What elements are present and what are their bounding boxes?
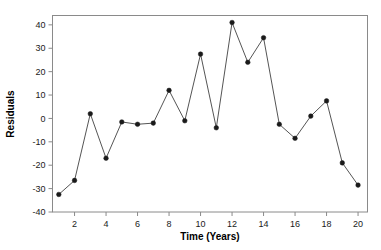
- data-point-marker: [72, 178, 77, 183]
- y-tick-label: -40: [32, 207, 45, 217]
- y-tick-label: 10: [35, 90, 45, 100]
- x-tick-label: 20: [353, 219, 363, 229]
- data-point-marker: [104, 156, 109, 161]
- data-point-marker: [340, 161, 345, 166]
- data-point-marker: [230, 20, 235, 25]
- y-axis-title: Residuals: [5, 90, 16, 138]
- y-tick-label: -10: [32, 137, 45, 147]
- data-point-marker: [198, 52, 203, 57]
- data-point-marker: [57, 192, 62, 197]
- y-tick-label: -20: [32, 160, 45, 170]
- data-point-marker: [135, 122, 140, 127]
- y-axis-tick-labels: -40-30-20-10010203040: [32, 20, 45, 217]
- y-tick-label: 20: [35, 67, 45, 77]
- data-point-marker: [324, 99, 329, 104]
- y-tick-label: 30: [35, 43, 45, 53]
- y-axis-ticks: [49, 25, 53, 212]
- y-tick-label: 0: [40, 114, 45, 124]
- data-point-marker: [309, 114, 314, 119]
- x-tick-label: 12: [227, 219, 237, 229]
- y-tick-label: 40: [35, 20, 45, 30]
- data-point-marker: [151, 121, 156, 126]
- plot-area: -40-30-20-10010203040 2468101214161820 T…: [0, 0, 381, 250]
- x-tick-label: 14: [259, 219, 269, 229]
- x-tick-label: 18: [322, 219, 332, 229]
- data-point-marker: [261, 35, 266, 40]
- x-tick-label: 10: [196, 219, 206, 229]
- data-point-marker: [246, 60, 251, 65]
- data-point-marker: [167, 88, 172, 93]
- residuals-chart: -40-30-20-10010203040 2468101214161820 T…: [0, 0, 381, 250]
- data-point-marker: [120, 120, 125, 125]
- x-axis-tick-labels: 2468101214161820: [72, 219, 363, 229]
- data-point-marker: [88, 111, 93, 116]
- x-tick-label: 16: [290, 219, 300, 229]
- x-axis-ticks: [75, 212, 359, 216]
- x-tick-label: 6: [135, 219, 140, 229]
- plot-border: [53, 16, 368, 213]
- chart-frame: [53, 16, 368, 213]
- x-tick-label: 4: [104, 219, 109, 229]
- x-axis-title: Time (Years): [180, 231, 239, 242]
- x-tick-label: 2: [72, 219, 77, 229]
- data-point-marker: [293, 136, 298, 141]
- data-point-marker: [277, 122, 282, 127]
- data-point-marker: [183, 118, 188, 123]
- data-point-marker: [214, 125, 219, 130]
- x-tick-label: 8: [167, 219, 172, 229]
- data-point-marker: [356, 183, 361, 188]
- y-tick-label: -30: [32, 184, 45, 194]
